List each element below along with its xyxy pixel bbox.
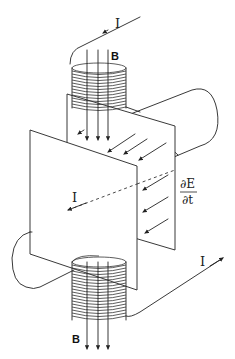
label-dE-denominator: ∂t (182, 193, 193, 207)
displacement-current-diagram: I B I ∂E ∂t I B (0, 0, 235, 359)
label-field-bottom: B (72, 333, 80, 345)
label-current-bottom: I (200, 254, 205, 269)
label-current-middle: I (72, 190, 77, 205)
label-current-top: I (115, 16, 120, 31)
label-dE-numerator: ∂E (180, 177, 195, 191)
label-field-top: B (111, 50, 119, 62)
